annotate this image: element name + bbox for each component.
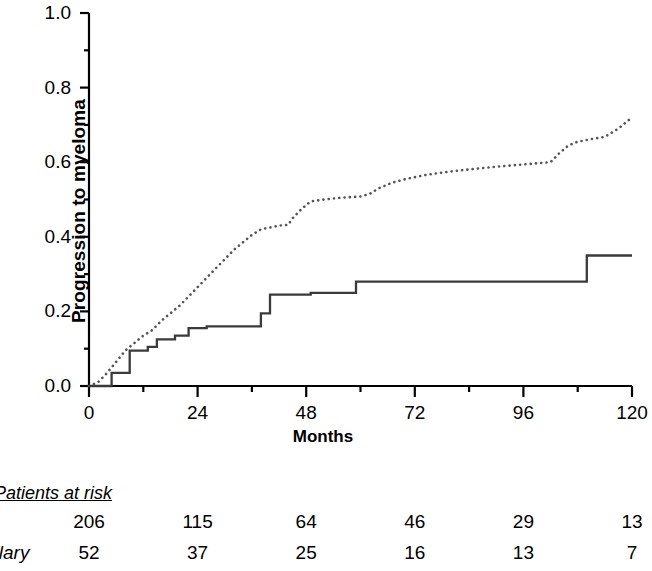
- x-tick-label: 0: [49, 403, 129, 422]
- risk-cell: 37: [163, 542, 233, 564]
- y-tick-label: 0.6: [13, 152, 71, 171]
- y-tick-label: 0.4: [13, 227, 71, 246]
- risk-table-caption: Patients at risk: [0, 483, 112, 504]
- risk-cell: 7: [597, 542, 652, 564]
- y-tick-label: 0.2: [13, 301, 71, 320]
- risk-cell: 25: [271, 542, 341, 564]
- risk-row-label: ullary: [0, 542, 29, 564]
- data-series: [89, 117, 632, 386]
- risk-cell: 13: [488, 542, 558, 564]
- x-tick-label: 96: [483, 403, 563, 422]
- chart-svg: [0, 0, 646, 455]
- risk-cell: 115: [163, 511, 233, 533]
- risk-cell: 52: [54, 542, 124, 564]
- risk-cell: 16: [380, 542, 450, 564]
- risk-table-row: 20611564462913: [0, 511, 646, 541]
- series-dotted-curve: [89, 117, 632, 386]
- x-tick-label: 24: [158, 403, 238, 422]
- x-axis-ticks: [89, 386, 632, 397]
- x-axis-title: Months: [0, 427, 646, 447]
- y-tick-label: 0.8: [13, 78, 71, 97]
- x-tick-label: 48: [266, 403, 346, 422]
- risk-cell: 46: [380, 511, 450, 533]
- series-solid-step-curve: [89, 256, 632, 387]
- x-tick-label: 72: [375, 403, 455, 422]
- chart-plot-area: Progression to myeloma 0.00.20.40.60.81.…: [0, 0, 646, 455]
- risk-cell: 13: [597, 511, 652, 533]
- risk-cell: 206: [54, 511, 124, 533]
- risk-cell: 29: [488, 511, 558, 533]
- y-tick-label: 0.0: [13, 376, 71, 395]
- risk-cell: 64: [271, 511, 341, 533]
- x-tick-label: 120: [592, 403, 652, 422]
- risk-table-row: ullary52372516137: [0, 542, 646, 571]
- y-axis-title: Progression to myeloma: [68, 46, 90, 376]
- axes: [89, 13, 632, 386]
- patients-at-risk-table: Patients at risk 20611564462913ullary523…: [0, 455, 646, 571]
- y-tick-label: 1.0: [13, 3, 71, 22]
